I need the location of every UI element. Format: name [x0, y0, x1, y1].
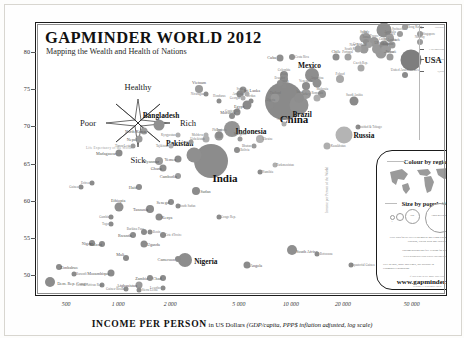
bubble-south-sudan[interactable]	[176, 203, 181, 208]
bubble-usa[interactable]	[401, 50, 422, 71]
bubble-chile[interactable]	[332, 53, 339, 60]
bubble-uzbekistan[interactable]	[203, 135, 210, 142]
bubble-china[interactable]	[265, 82, 303, 120]
bubble-ireland[interactable]	[383, 46, 389, 52]
bubble-afghanistan[interactable]	[135, 282, 142, 289]
bubble-lesotho[interactable]	[161, 285, 166, 290]
bubble-yemen[interactable]	[175, 155, 182, 162]
bubble-mali[interactable]	[123, 255, 129, 261]
bubble-cameroon[interactable]	[175, 256, 181, 262]
bubble-malaysia[interactable]	[318, 90, 326, 98]
bubble-kyrgyzstan[interactable]	[176, 132, 181, 137]
bubble-italy[interactable]	[361, 33, 371, 43]
bubble-united-arab-emirates[interactable]	[402, 72, 408, 78]
bubble-south-africa[interactable]	[287, 245, 297, 255]
bubble-norway[interactable]	[417, 39, 423, 45]
bubble-ethiopia[interactable]	[115, 203, 124, 212]
bubble-azerbaijan[interactable]	[282, 121, 287, 126]
bubble-brazil[interactable]	[290, 95, 309, 114]
bubble-romania[interactable]	[314, 94, 321, 101]
bubble-austria[interactable]	[389, 42, 395, 48]
bubble-burkina-faso[interactable]	[141, 229, 147, 235]
bubble-turkey[interactable]	[301, 89, 311, 99]
bubble-peru[interactable]	[280, 75, 288, 83]
bubble-bhutan[interactable]	[251, 143, 256, 148]
bubble-singapore[interactable]	[417, 31, 423, 37]
bubble-angola[interactable]	[244, 262, 251, 269]
bubble-sudan[interactable]	[192, 187, 200, 195]
bubble-france[interactable]	[369, 37, 379, 47]
bubble-south-korea[interactable]	[359, 45, 368, 54]
bubble-rwanda[interactable]	[130, 232, 136, 238]
bubble-algeria[interactable]	[266, 101, 274, 109]
bubble-ghana[interactable]	[160, 165, 167, 172]
bubble-denmark[interactable]	[387, 54, 393, 60]
bubble-germany[interactable]	[376, 47, 387, 58]
bubble-guatemala[interactable]	[229, 113, 235, 119]
bubble-guinea[interactable]	[78, 184, 83, 189]
bubble-zimbabwe[interactable]	[56, 264, 62, 270]
bubble-nigeria[interactable]	[178, 253, 192, 267]
bubble-nicaragua[interactable]	[204, 91, 209, 96]
bubble-gambia[interactable]	[109, 214, 114, 219]
bubble-nepal[interactable]	[135, 135, 142, 142]
bubble-guinea-bissau[interactable]	[124, 287, 129, 292]
bubble-switzerland[interactable]	[397, 31, 403, 37]
bubble-netherlands[interactable]	[389, 42, 396, 49]
bubble-portugal[interactable]	[344, 53, 351, 60]
bubble-canada[interactable]	[379, 41, 388, 50]
bubble-mexico[interactable]	[305, 68, 319, 82]
bubble-dem-rep-congo[interactable]	[45, 277, 55, 287]
bubble-zambia[interactable]	[147, 275, 153, 281]
bubble-japan[interactable]	[376, 23, 391, 38]
bubble-new-zealand[interactable]	[366, 42, 372, 48]
bubble-cuba[interactable]	[276, 55, 283, 62]
bubble-niger[interactable]	[89, 240, 95, 246]
bubble-venezuela[interactable]	[302, 82, 310, 90]
bubble-laos[interactable]	[188, 140, 193, 145]
bubble-czech-rep-[interactable]	[357, 64, 364, 71]
bubble-equatorial-guinea[interactable]	[349, 263, 354, 268]
bubble-turkmenistan[interactable]	[273, 162, 278, 167]
bubble-mozambique[interactable]	[108, 269, 115, 276]
bubble-togo[interactable]	[109, 222, 114, 227]
bubble-finland[interactable]	[381, 46, 387, 52]
bubble-tanzania[interactable]	[146, 205, 154, 213]
bubble-vietnam[interactable]	[195, 85, 203, 93]
bubble-australia[interactable]	[386, 34, 394, 42]
bubble-india[interactable]	[194, 144, 228, 178]
bubble-kazakhstan[interactable]	[324, 142, 331, 149]
bubble-armenia[interactable]	[245, 91, 250, 96]
bubble-sweden[interactable]	[387, 36, 393, 42]
bubble-tunisia[interactable]	[281, 83, 287, 89]
bubble-greece[interactable]	[354, 46, 361, 53]
bubble-botswana[interactable]	[315, 252, 320, 257]
bubble-cote-d-ivoire[interactable]	[160, 232, 166, 238]
bubble-honduras[interactable]	[217, 99, 222, 104]
bubble-hong-kong[interactable]	[402, 24, 408, 30]
bubble-moldova[interactable]	[204, 132, 209, 137]
bubble-namibia[interactable]	[257, 170, 262, 175]
bubble-syria[interactable]	[236, 90, 243, 97]
bubble-malawi[interactable]	[99, 241, 105, 247]
bubble-eritrea[interactable]	[90, 181, 95, 186]
bubble-georgia[interactable]	[240, 95, 245, 100]
bubble-haiti[interactable]	[136, 184, 142, 190]
bubble-thailand[interactable]	[271, 93, 280, 102]
bubble-bolivia[interactable]	[234, 147, 240, 153]
bubble-taiwan[interactable]	[387, 53, 394, 60]
bubble-iran[interactable]	[294, 93, 304, 103]
bubble-uk[interactable]	[372, 44, 382, 54]
bubble-philippines[interactable]	[215, 132, 224, 141]
bubble-congo-rep-[interactable]	[217, 214, 222, 219]
bubble-argentina[interactable]	[313, 78, 322, 87]
bubble-costa-rica[interactable]	[289, 54, 295, 60]
bubble-ecuador[interactable]	[277, 80, 283, 86]
bubble-indonesia[interactable]	[224, 121, 240, 137]
bubble-central-african-rep-[interactable]	[100, 283, 105, 288]
bubble-benin[interactable]	[147, 229, 152, 234]
bubble-cambodia[interactable]	[175, 173, 181, 179]
bubble-mongolia[interactable]	[237, 136, 242, 141]
bubble-trinidad-tobago[interactable]	[355, 125, 360, 130]
bubble-tajikistan[interactable]	[169, 143, 174, 148]
